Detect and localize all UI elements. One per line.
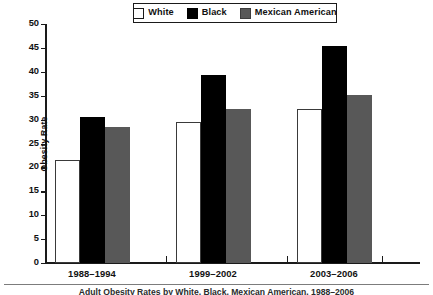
y-tick-mark (41, 167, 45, 168)
legend-swatch-black-icon (187, 8, 198, 19)
bar-white-1988–1994 (55, 160, 80, 263)
y-tick-label: 15 (29, 187, 39, 196)
y-tick-label: 10 (29, 211, 39, 220)
bar-mexican-american-1999–2002 (226, 109, 251, 263)
y-tick-label: 30 (29, 115, 39, 124)
legend-item-black: Black (187, 8, 227, 19)
y-tick-label: 40 (29, 67, 39, 76)
legend-label-white: White (148, 8, 174, 17)
legend-item-white: White (133, 8, 174, 19)
legend-swatch-mexican-american-icon (240, 8, 251, 19)
y-tick-label: 5 (34, 234, 39, 243)
x-axis-label-3: 2003–2006 (310, 268, 358, 279)
y-tick-mark (41, 72, 45, 73)
y-tick-mark (41, 96, 45, 97)
y-tick-mark (41, 263, 45, 264)
x-group-separator (382, 256, 383, 263)
legend-item-mexican-american: Mexican American (240, 8, 337, 19)
y-tick-mark (41, 215, 45, 216)
legend-label-mexican-american: Mexican American (255, 8, 337, 17)
y-tick-label: 20 (29, 163, 39, 172)
y-tick-label: 50 (29, 19, 39, 28)
legend-label-black: Black (202, 8, 227, 17)
bar-mexican-american-1988–1994 (105, 127, 130, 263)
bar-mexican-american-2003–2006 (347, 95, 372, 263)
figure-caption: Adult Obesity Rates by White, Black, Mex… (4, 287, 429, 295)
y-tick-mark (41, 120, 45, 121)
bar-black-1988–1994 (80, 117, 105, 263)
x-axis-label-1: 1988–1994 (68, 268, 116, 279)
y-tick-label: 35 (29, 91, 39, 100)
y-tick-label: 45 (29, 43, 39, 52)
bar-white-2003–2006 (297, 109, 322, 263)
bar-black-1999–2002 (201, 75, 226, 263)
y-tick-mark (41, 239, 45, 240)
bar-black-2003–2006 (322, 46, 347, 263)
x-axis-label-2: 1999–2002 (189, 268, 237, 279)
bar-white-1999–2002 (176, 122, 201, 263)
obesity-rate-bar-chart: White Black Mexican American Obesity Rat… (0, 0, 433, 295)
y-tick-mark (41, 191, 45, 192)
chart-legend: White Black Mexican American (133, 3, 337, 23)
y-tick-mark (41, 48, 45, 49)
caption-divider (4, 284, 429, 285)
plot-area: Obesity Rate 05101520253035404550 (45, 24, 420, 263)
y-tick-label: 25 (29, 139, 39, 148)
legend-swatch-white-icon (133, 8, 144, 19)
x-group-separator (166, 256, 167, 263)
y-tick-mark (41, 24, 45, 25)
x-group-separator (45, 256, 46, 263)
x-group-separator (287, 256, 288, 263)
y-tick-label: 0 (34, 258, 39, 267)
y-tick-mark (41, 144, 45, 145)
